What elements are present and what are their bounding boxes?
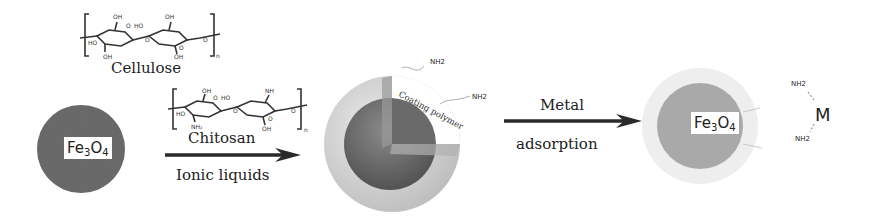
cellulose-subscript-n: n [216,52,220,59]
fe3o4-label: Fe3O4 [64,137,112,159]
svg-text:HO: HO [221,94,231,101]
svg-text:OH: OH [202,87,211,94]
arrow2-label-bottom: adsorption [516,135,598,153]
svg-text:O: O [145,36,150,43]
svg-text:O: O [179,44,184,51]
chitosan-subscript-n: n [304,126,308,133]
svg-text:O: O [268,115,273,122]
svg-text:O: O [203,36,208,43]
chitosan-structure: OH O HO NH HO NH₂ O O OH O n [165,85,315,133]
svg-text:O: O [213,94,218,101]
coated-particle: Coating polymer [320,56,500,216]
nh2-group-side: NH2 [472,93,487,101]
svg-text:OH: OH [165,13,174,20]
svg-text:O: O [126,22,131,29]
arrow1-label-bottom: Ionic liquids [176,166,270,184]
svg-text:HO: HO [134,22,144,29]
svg-text:O: O [291,107,296,114]
cellulose-structure: OH O HO OH HO OH O O OH O n [75,8,225,60]
product-nh2-top: NH2 [791,80,806,88]
svg-text:HO: HO [176,110,186,117]
svg-text:NH: NH [265,87,274,94]
reaction-scheme-diagram: OH O HO OH HO OH O O OH O n Cellulose OH… [0,0,872,219]
metal-label: M [815,104,831,125]
cellulose-oh-label: OH [113,13,122,20]
svg-text:OH: OH [262,125,271,132]
svg-text:O: O [233,107,238,114]
arrow-right-icon [163,146,305,164]
product-fe3o4-label: Fe3O4 [691,112,739,134]
nh2-group-top: NH2 [430,58,445,66]
arrow1-label-top: Chitosan [188,129,255,147]
arrow-right-icon [502,112,646,130]
svg-text:HO: HO [88,39,98,46]
cellulose-label: Cellulose [111,59,181,77]
